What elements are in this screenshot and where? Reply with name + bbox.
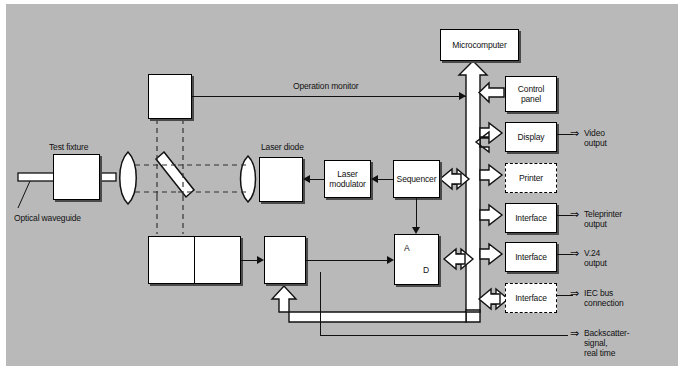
line-interface-to-v24-output	[557, 254, 573, 255]
connector-icon-backscatter: ⇒	[570, 328, 579, 339]
bus-branch-interface-teleprinter	[480, 205, 502, 225]
label-teleprinter-output-line1: Teleprinter	[584, 209, 622, 219]
line-interface-to-iec-bus	[557, 295, 573, 296]
beam-splitter	[156, 152, 194, 197]
microcomputer-label: Microcomputer	[441, 40, 518, 50]
line-sequencer-to-ad	[416, 198, 417, 227]
block-interface-v24: Interface	[505, 242, 557, 272]
interface-iec-label: Interface	[506, 293, 556, 303]
ad-label-d: D	[423, 265, 429, 275]
line-modulator-to-laser	[310, 179, 324, 180]
block-control-panel: Controlpanel	[505, 76, 557, 112]
line-preamp-to-gate	[241, 260, 257, 261]
interface-teleprinter-label: Interface	[506, 213, 556, 223]
laser-modulator-line2: modulator	[329, 179, 365, 189]
arrow-modulator-to-laser	[303, 175, 310, 183]
block-microcomputer: Microcomputer	[440, 29, 519, 61]
block-printer: Printer	[505, 163, 557, 193]
block-interface-teleprinter: Interface	[505, 203, 557, 233]
block-gated-amplifier	[264, 236, 306, 284]
label-operation-monitor: Operation monitor	[293, 81, 358, 91]
bus-branch-display	[476, 123, 502, 152]
label-backscatter-line3: real time	[584, 348, 615, 358]
bus-branch-interface-v24	[480, 244, 502, 264]
bus-gate-control-path	[272, 286, 480, 322]
interface-v24-label: Interface	[506, 252, 556, 262]
arrow-gate-to-ad	[387, 256, 394, 264]
label-backscatter-line2: signal,	[584, 338, 608, 348]
coupling-lens	[241, 156, 256, 202]
label-video-output-line1: Video	[584, 128, 605, 138]
optical-waveguide-leader	[18, 181, 30, 208]
block-ad-converter: A D	[394, 234, 439, 285]
label-optical-waveguide: Optical waveguide	[14, 213, 81, 223]
block-test-fixture	[53, 154, 100, 200]
bus-branch-interface-iec	[479, 289, 508, 309]
block-preamplifier	[194, 236, 241, 284]
optical-beam-paths	[131, 120, 246, 234]
line-interface-to-teleprinter-output	[557, 215, 573, 216]
collimating-lens	[120, 152, 137, 204]
label-iec-bus-line1: IEC bus	[584, 288, 613, 298]
figure-root: Test fixture Optical waveguide Laser dio…	[0, 0, 686, 381]
connector-icon-iec: ⇒	[570, 288, 579, 299]
label-v24-output-line2: output	[584, 258, 607, 268]
label-backscatter-line1: Backscatter-	[584, 328, 629, 338]
label-video-output-line2: output	[584, 138, 607, 148]
arrow-sequencer-to-ad	[412, 227, 420, 234]
block-detector-photodiode	[148, 236, 195, 284]
line-backscatter-vertical	[320, 272, 321, 335]
block-sequencer: Sequencer	[393, 160, 440, 198]
arrow-sequencer-to-modulator	[371, 175, 378, 183]
label-laser-diode: Laser diode	[261, 142, 304, 152]
bus-branch-control-panel	[479, 83, 504, 102]
block-display: Display	[505, 122, 557, 152]
line-display-to-video-output	[557, 134, 573, 135]
line-operation-monitor	[192, 96, 466, 97]
bus-branch-sequencer	[440, 169, 469, 189]
block-monitor-photodiode	[148, 74, 192, 119]
arrow-preamp-to-gate	[257, 256, 264, 264]
sequencer-label: Sequencer	[394, 174, 439, 184]
control-panel-line2: panel	[521, 94, 541, 104]
line-gate-to-ad	[306, 260, 387, 261]
block-interface-iec: Interface	[505, 283, 557, 313]
line-backscatter-horizontal	[320, 335, 568, 336]
block-laser-modulator: Lasermodulator	[324, 160, 371, 198]
system-bus	[459, 61, 487, 322]
label-test-fixture: Test fixture	[49, 142, 88, 152]
line-sequencer-to-modulator	[378, 179, 393, 180]
label-v24-output-line1: V.24	[584, 248, 600, 258]
block-laser-diode	[259, 157, 303, 202]
printer-label: Printer	[506, 173, 556, 183]
bus-branch-printer	[480, 165, 502, 185]
laser-modulator-line1: Laser	[337, 169, 358, 179]
label-teleprinter-output-line2: output	[584, 219, 607, 229]
label-iec-bus-line2: connection	[584, 298, 624, 308]
control-panel-line1: Control	[518, 84, 544, 94]
ad-label-a: A	[404, 243, 410, 253]
display-label: Display	[506, 132, 556, 142]
arrow-operation-monitor	[459, 92, 466, 100]
